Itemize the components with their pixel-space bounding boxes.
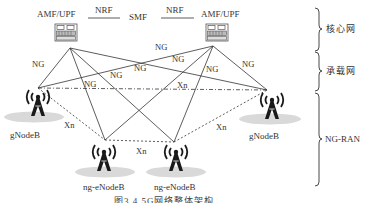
layer-label-core-network: 核心网	[326, 25, 356, 34]
server-icon-right	[206, 24, 228, 41]
ng-enodeb-right-label: ng-eNodeB	[154, 183, 196, 192]
ng-label: NG	[32, 60, 44, 69]
layer-braces	[315, 8, 322, 186]
ng-label: NG	[242, 60, 254, 69]
brace-ran	[315, 93, 322, 186]
brace-core	[315, 8, 322, 51]
coverage-ellipse-ngenb-left	[75, 167, 135, 178]
xn-label: Xn	[64, 121, 74, 130]
ng-label: NG	[155, 43, 167, 52]
5g-network-architecture-diagram: AMF/UPF NRF SMF NRF AMF/UPF NG NG NG NG …	[0, 0, 367, 203]
ng-enodeb-left-label: ng-eNodeB	[83, 183, 125, 192]
ng-label: NG	[134, 64, 146, 73]
gnodeb-right-label: gNodeB	[249, 132, 279, 141]
brace-transport	[315, 52, 322, 91]
figure-caption: 图3.4 5G网络整体架构	[114, 197, 215, 203]
xn-label: Xn	[136, 147, 146, 156]
ng-label: NG	[110, 71, 122, 80]
coverage-ellipse-gnb-right	[239, 114, 301, 125]
xn-links	[38, 88, 267, 142]
xn-label: Xn	[177, 81, 187, 90]
amf-upf-right-label: AMF/UPF	[201, 10, 240, 19]
ng-label: NG	[172, 55, 184, 64]
ng-label: NG	[84, 80, 96, 89]
ng-label: NG	[206, 65, 218, 74]
xn-label: Xn	[216, 123, 226, 132]
server-icon-left	[55, 24, 77, 41]
nrf-left-label: NRF	[95, 6, 113, 15]
layer-label-transport-network: 承载网	[326, 67, 356, 76]
amf-upf-left-label: AMF/UPF	[37, 10, 76, 19]
nrf-right-label: NRF	[166, 6, 184, 15]
layer-label-ng-ran: NG-RAN	[325, 135, 360, 144]
coverage-ellipse-ngenb-right	[146, 167, 206, 178]
gnodeb-left-label: gNodeB	[10, 131, 40, 140]
smf-label: SMF	[129, 13, 147, 22]
